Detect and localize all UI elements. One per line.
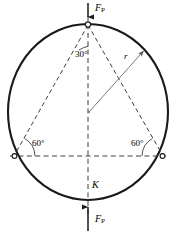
force-label-bottom-subscript: P (101, 217, 105, 225)
radius-label: r (124, 52, 128, 61)
node-right-vertex (160, 154, 165, 159)
angle-label-left: 60° (32, 139, 45, 148)
force-label-top: FP (95, 3, 105, 14)
node-left-vertex (12, 154, 17, 159)
angle-label-right: 60° (131, 139, 144, 148)
triangle-side-left (15, 25, 89, 155)
force-label-bottom: FP (95, 214, 105, 225)
force-diagram-figure: FP FP 30° 60° 60° r K (0, 0, 180, 234)
point-label-k: K (92, 180, 99, 190)
diagram-canvas (0, 0, 180, 234)
force-label-top-subscript: P (101, 6, 105, 14)
center-point (88, 111, 90, 113)
node-apex (85, 22, 90, 27)
triangle-side-right (88, 25, 163, 155)
angle-label-apex: 30° (75, 50, 88, 59)
radius-line (89, 51, 144, 112)
